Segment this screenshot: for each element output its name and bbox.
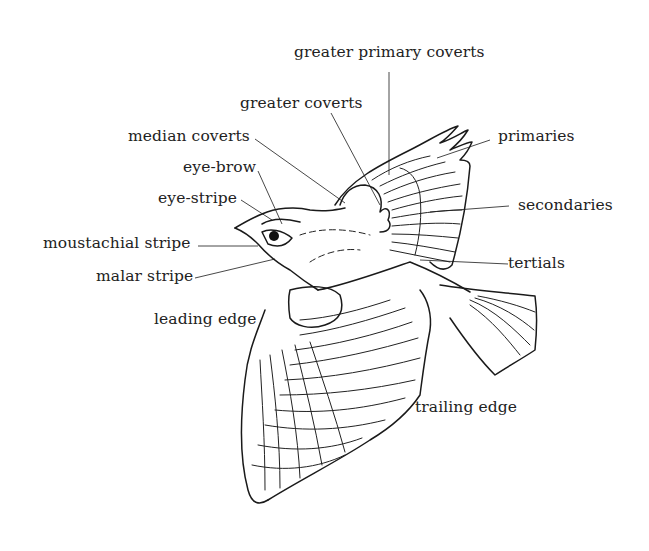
label-primaries: primaries	[498, 129, 575, 145]
label-malar-stripe: malar stripe	[96, 269, 193, 285]
label-trailing-edge: trailing edge	[415, 400, 517, 416]
lower-wing	[242, 287, 431, 503]
label-eye-brow: eye-brow	[183, 160, 256, 176]
upper-wing	[335, 126, 472, 269]
label-tertials: tertials	[508, 256, 565, 272]
label-moustachial-stripe: moustachial stripe	[43, 236, 191, 252]
label-secondaries: secondaries	[518, 198, 613, 214]
head-body	[235, 208, 470, 292]
label-greater-coverts: greater coverts	[240, 96, 363, 112]
label-greater-primary-coverts: greater primary coverts	[294, 45, 485, 61]
label-median-coverts: median coverts	[128, 129, 250, 145]
tail	[440, 285, 537, 375]
label-leading-edge: leading edge	[154, 312, 256, 328]
label-eye-stripe: eye-stripe	[158, 191, 237, 207]
